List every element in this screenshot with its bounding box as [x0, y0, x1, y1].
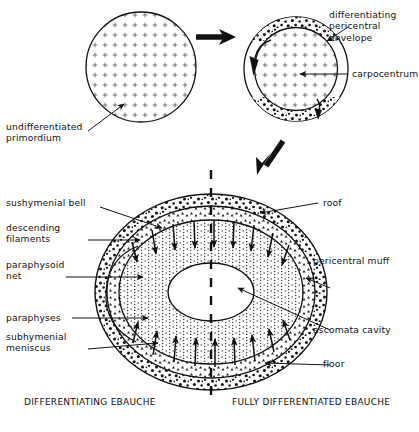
label-paraphysoid-net: paraphysoid net	[6, 259, 64, 282]
label-carpocentrum: carpocentrum	[352, 68, 418, 79]
figure-canvas: undifferentiated primordium differentiat…	[0, 0, 419, 432]
caption-left: DIFFERENTIATING EBAUCHE	[24, 397, 156, 408]
stage-3-ebauche	[95, 170, 327, 400]
label-descending-filaments: descending filaments	[6, 222, 60, 245]
label-sushymenial-bell: sushymenial bell	[6, 197, 86, 208]
label-subhymenial-meniscus: subhymenial meniscus	[6, 331, 67, 354]
label-roof: roof	[323, 197, 342, 208]
label-ascomata-cavity: ascomata cavity	[313, 324, 391, 335]
diagram-svg	[0, 0, 419, 432]
label-undifferentiated-primordium: undifferentiated primordium	[6, 121, 82, 144]
label-floor: floor	[323, 358, 345, 369]
transition-arrow-1	[196, 29, 236, 45]
label-pericentral-muff: pericentral muff	[313, 255, 389, 266]
stage-1-primordium	[86, 12, 196, 122]
label-differentiating-pericentral-envelope: differentiating pericentral envelope	[329, 9, 396, 43]
caption-right: FULLY DIFFERENTIATED EBAUCHE	[232, 397, 390, 408]
label-paraphyses: paraphyses	[6, 312, 61, 323]
transition-arrow-2	[256, 141, 283, 175]
